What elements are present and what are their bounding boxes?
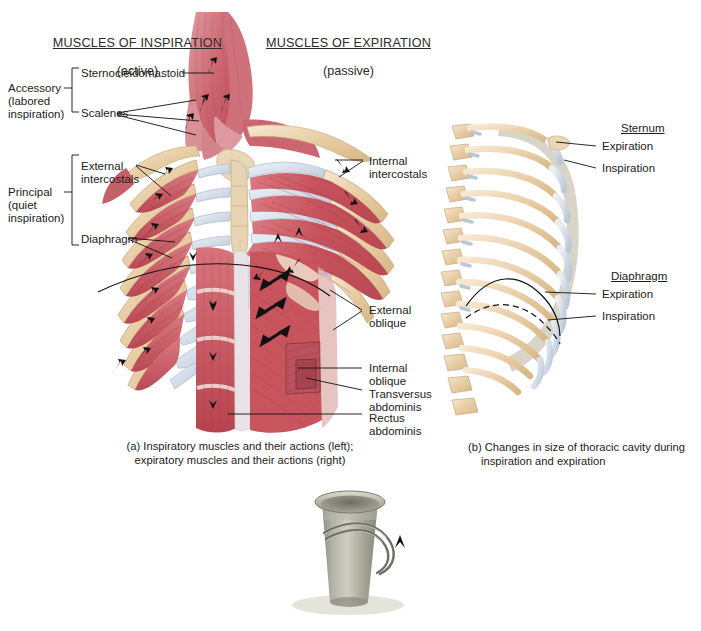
label-external-intercostals-line2: intercostals [81, 173, 139, 186]
header-expiration-subtitle: (passive) [323, 64, 374, 78]
header-expiration: MUSCLES OF EXPIRATION (passive) [232, 22, 458, 78]
label-sternum-heading: Sternum [621, 122, 664, 135]
header-inspiration-title: MUSCLES OF INSPIRATION [53, 36, 222, 50]
label-external-oblique-line1: External [369, 304, 411, 317]
figure-artwork [0, 0, 701, 631]
label-internal-intercostals-line2: intercostals [369, 168, 427, 181]
label-sternum-expiration: Expiration [602, 140, 653, 153]
label-scalenes: Scalenes [81, 107, 128, 120]
label-transversus-abdominis-line1: Transversus [369, 388, 432, 401]
caption-panel-b-line1: (b) Changes in size of thoracic cavity d… [468, 441, 685, 453]
caption-panel-a-line1: (a) Inspiratory muscles and their action… [127, 440, 354, 452]
ribs-lateral [459, 127, 569, 392]
label-external-intercostals-line1: External [81, 160, 123, 173]
label-rectus-abdominis-line2: abdominis [369, 425, 421, 438]
principal-group-label-line1: Principal [8, 186, 52, 199]
label-diaphragm-a: Diaphragm [81, 233, 137, 246]
label-internal-oblique-line1: Internal [369, 362, 407, 375]
bucket-up-arrow-icon [395, 535, 405, 568]
panel-c-artwork [292, 491, 405, 615]
header-expiration-title: MUSCLES OF EXPIRATION [266, 36, 431, 50]
respiratory-muscles-figure: MUSCLES OF INSPIRATION (active) MUSCLES … [0, 0, 701, 631]
accessory-group-label-line2: (labored [8, 95, 50, 108]
principal-group-label-line3: inspiration) [8, 212, 64, 225]
caption-panel-a-line2: expiratory muscles and their actions (ri… [135, 454, 346, 466]
caption-panel-b: (b) Changes in size of thoracic cavity d… [468, 441, 698, 468]
label-sternum-inspiration: Inspiration [602, 162, 655, 175]
panel-b-artwork [441, 124, 596, 415]
label-internal-intercostals-line1: Internal [369, 155, 407, 168]
label-sternocleidomastoid: Sternocleidomastoid [81, 67, 185, 80]
label-external-oblique-line2: oblique [369, 317, 406, 330]
accessory-group-label-line1: Accessory [8, 82, 61, 95]
caption-panel-a: (a) Inspiratory muscles and their action… [80, 440, 400, 467]
label-diaphragm-inspiration: Inspiration [602, 310, 655, 323]
label-diaphragm-heading: Diaphragm [611, 270, 667, 283]
label-internal-oblique-line2: oblique [369, 375, 406, 388]
accessory-group-label-line3: inspiration) [8, 108, 64, 121]
principal-group-label-line2: (quiet [8, 199, 37, 212]
label-diaphragm-expiration: Expiration [602, 288, 653, 301]
label-rectus-abdominis-line1: Rectus [369, 412, 405, 425]
caption-panel-b-line2: inspiration and expiration [468, 455, 605, 469]
